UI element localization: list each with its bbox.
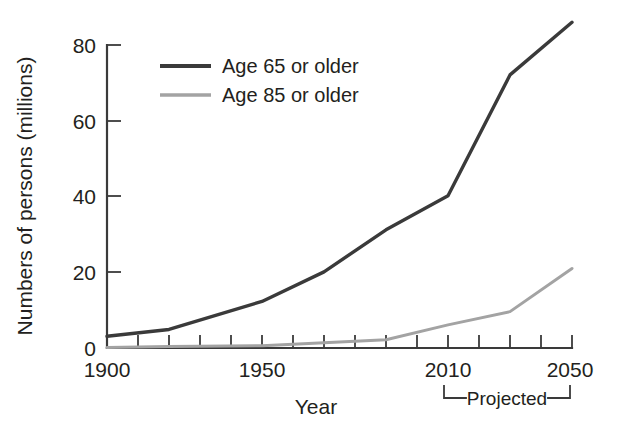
x-tick-label-2010: 2010	[425, 358, 472, 381]
legend-label-age-85: Age 85 or older	[222, 84, 359, 106]
x-axis-title: Year	[295, 395, 337, 418]
y-tick-label-40: 40	[73, 185, 96, 208]
line-chart: Numbers of persons (millions) 80 60 40 2…	[0, 0, 619, 442]
figure-container: Numbers of persons (millions) 80 60 40 2…	[0, 0, 619, 442]
y-tick-marks	[107, 45, 121, 272]
chart-legend: Age 65 or older Age 85 or older	[160, 55, 359, 106]
legend-label-age-65: Age 65 or older	[222, 55, 359, 77]
y-tick-label-0: 0	[84, 337, 96, 360]
series-line-age-85	[107, 268, 572, 347]
y-tick-label-60: 60	[73, 110, 96, 133]
y-axis-title: Numbers of persons (millions)	[13, 57, 36, 336]
x-tick-label-1950: 1950	[239, 358, 286, 381]
x-tick-label-2050: 2050	[547, 358, 594, 381]
y-tick-label-80: 80	[73, 34, 96, 57]
projected-label: Projected	[467, 388, 547, 409]
y-tick-label-20: 20	[73, 261, 96, 284]
x-tick-label-1900: 1900	[84, 358, 131, 381]
